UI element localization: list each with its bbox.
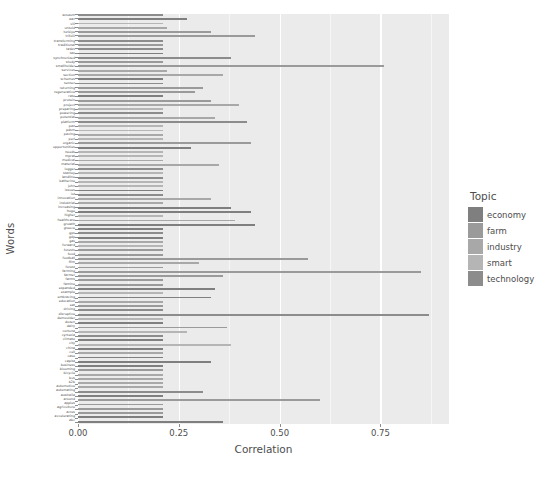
bar [78,108,163,110]
bar [78,254,163,256]
legend-item[interactable]: technology [468,271,554,286]
y-axis-tick-labels: wisdomwarviliuntoldturkiyetrifoliitransf… [18,14,76,424]
bar-row [78,327,449,329]
y-axis-title-text: Words [6,223,17,255]
bar [78,382,163,384]
bar [78,138,163,140]
legend-label: farm [487,226,507,236]
bar-row [78,78,449,80]
bar-row [78,288,449,290]
bar [78,305,163,307]
bar [78,344,231,346]
x-axis-tick-label: 0.00 [69,428,88,438]
legend-swatch [468,255,483,270]
bar [78,284,163,286]
bar [78,198,211,200]
legend-key [468,271,483,286]
bar [78,365,163,367]
x-axis-tick [280,424,281,427]
x-axis-tick-label: 0.50 [270,428,289,438]
bar [78,258,308,260]
bar [78,151,163,153]
bar [78,194,163,196]
bar [78,279,163,281]
bar-row [78,27,449,29]
legend-swatch [468,223,483,238]
bar-row [78,83,449,85]
bar-row [78,344,449,346]
bar-row [78,241,449,243]
bar [78,348,163,350]
bar [78,117,215,119]
bar-row [78,181,449,183]
bar-row [78,117,449,119]
bar-row [78,382,449,384]
bar [78,100,211,102]
bar-row [78,318,449,320]
bar-row [78,395,449,397]
bar-row [78,198,449,200]
bar-row [78,168,449,170]
bar-row [78,374,449,376]
bar [78,121,247,123]
bar [78,48,163,50]
bar [78,237,163,239]
legend-swatch [468,207,483,222]
bar-row [78,309,449,311]
legend-item[interactable]: industry [468,239,554,254]
bar [78,275,223,277]
bar [78,335,163,337]
bar-row [78,160,449,162]
bar-row [78,404,449,406]
bar-row [78,228,449,230]
bar [78,327,227,329]
bar [78,378,163,380]
bar-row [78,35,449,37]
bar [78,61,163,63]
bar [78,395,163,397]
bar [78,322,163,324]
bar-row [78,254,449,256]
x-axis-tick-label: 0.25 [169,428,188,438]
x-axis-tick-label: 0.75 [371,428,390,438]
bar [78,155,163,157]
legend-key [468,255,483,270]
x-axis-tick [78,424,79,427]
bar-row [78,57,449,59]
bar [78,369,163,371]
bar-row [78,292,449,294]
bar [78,220,235,222]
bar [78,412,163,414]
bar [78,249,163,251]
bar-row [78,352,449,354]
bar [78,164,219,166]
bar-row [78,249,449,251]
bar [78,267,163,269]
legend-item[interactable]: economy [468,207,554,222]
bar [78,404,163,406]
bar-row [78,31,449,33]
bar [78,318,163,320]
bar-row [78,361,449,363]
bar-row [78,421,449,423]
bar-row [78,284,449,286]
bar-row [78,87,449,89]
bar-row [78,177,449,179]
bar-row [78,386,449,388]
bar-row [78,40,449,42]
bar-row [78,408,449,410]
legend-item[interactable]: farm [468,223,554,238]
bar-row [78,301,449,303]
bar-row [78,44,449,46]
bar-row [78,331,449,333]
bar-row [78,245,449,247]
x-axis-tick-labels: 0.000.250.500.75 [78,428,449,440]
legend-item[interactable]: smart [468,255,554,270]
bar [78,416,163,418]
bar-row [78,91,449,93]
bar [78,314,429,316]
bar [78,27,167,29]
bar-row [78,357,449,359]
bar [78,374,163,376]
bar-row [78,121,449,123]
